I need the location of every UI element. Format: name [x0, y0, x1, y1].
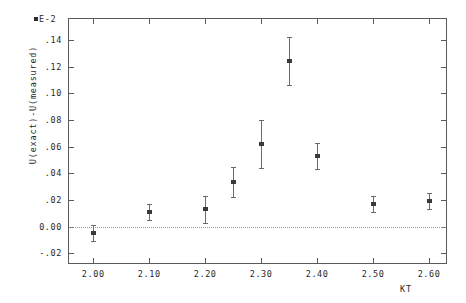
y-tick-mark [68, 147, 74, 148]
y-tick-mark-right [441, 40, 447, 41]
x-tick-label: 2.20 [175, 269, 235, 279]
error-bar-cap-lower [203, 223, 208, 224]
y-tick-label: .08 [0, 115, 62, 125]
y-tick-mark-right [441, 173, 447, 174]
error-bar-cap-lower [427, 209, 432, 210]
x-tick-label: 2.10 [119, 269, 179, 279]
x-tick-label: 2.00 [63, 269, 123, 279]
x-tick-mark [93, 258, 94, 264]
x-tick-mark [205, 258, 206, 264]
y-tick-mark [68, 253, 74, 254]
x-tick-mark [429, 258, 430, 264]
data-point-marker [91, 231, 96, 235]
zero-reference-line [69, 227, 446, 228]
x-tick-label: 2.30 [231, 269, 291, 279]
x-tick-mark-top [373, 18, 374, 24]
error-bar-cap-lower [371, 212, 376, 213]
y-tick-mark-right [441, 120, 447, 121]
data-point-marker [315, 154, 320, 158]
error-bar-cap-upper [427, 193, 432, 194]
data-point-marker [259, 142, 264, 146]
x-tick-label: 2.50 [343, 269, 403, 279]
x-tick-mark-top [93, 18, 94, 24]
y-tick-label: -.02 [0, 248, 62, 258]
error-bar-cap-upper [91, 225, 96, 226]
y-tick-label: .06 [0, 142, 62, 152]
x-tick-mark [149, 258, 150, 264]
y-tick-label: .14 [0, 35, 62, 45]
y-tick-label: .04 [0, 168, 62, 178]
error-bar-cap-upper [147, 204, 152, 205]
y-tick-mark [68, 67, 74, 68]
error-bar-cap-lower [315, 169, 320, 170]
data-point-marker [427, 199, 432, 203]
chart-canvas: E-2 U(exact)-U(measured) KT .14.12.10.08… [0, 0, 466, 303]
y-tick-label: 0.00 [0, 222, 62, 232]
error-bar-cap-lower [231, 197, 236, 198]
error-bar-cap-lower [287, 85, 292, 86]
y-tick-mark-right [441, 93, 447, 94]
y-tick-mark [68, 173, 74, 174]
data-point-marker [231, 180, 236, 184]
y-tick-mark [68, 120, 74, 121]
y-tick-label: .02 [0, 195, 62, 205]
y-tick-label: .12 [0, 62, 62, 72]
x-tick-mark [261, 258, 262, 264]
x-tick-mark [373, 258, 374, 264]
y-tick-mark [68, 93, 74, 94]
x-tick-mark [317, 258, 318, 264]
x-tick-label: 2.60 [399, 269, 459, 279]
error-bar-cap-upper [287, 37, 292, 38]
data-point-marker [287, 59, 292, 63]
error-bar-cap-upper [231, 167, 236, 168]
error-bar-cap-upper [259, 120, 264, 121]
y-tick-label: .10 [0, 88, 62, 98]
y-tick-mark-right [441, 147, 447, 148]
x-axis-title: KT [400, 284, 412, 294]
x-tick-mark-top [149, 18, 150, 24]
x-tick-mark-top [317, 18, 318, 24]
x-tick-mark-top [429, 18, 430, 24]
error-bar-cap-upper [315, 143, 320, 144]
x-tick-mark-top [261, 18, 262, 24]
y-tick-mark [68, 40, 74, 41]
y-tick-mark-right [441, 200, 447, 201]
x-tick-mark-top [205, 18, 206, 24]
y-tick-mark-right [441, 253, 447, 254]
error-bar-cap-lower [259, 168, 264, 169]
y-axis-exponent-text: E-2 [39, 14, 56, 24]
error-bar-cap-lower [91, 241, 96, 242]
data-point-marker [203, 207, 208, 211]
data-point-marker [147, 210, 152, 214]
y-tick-mark-right [441, 67, 447, 68]
data-point-marker [371, 202, 376, 206]
x-tick-label: 2.40 [287, 269, 347, 279]
error-bar-cap-upper [203, 196, 208, 197]
error-bar-cap-lower [147, 220, 152, 221]
error-bar-cap-upper [371, 196, 376, 197]
y-tick-mark [68, 200, 74, 201]
